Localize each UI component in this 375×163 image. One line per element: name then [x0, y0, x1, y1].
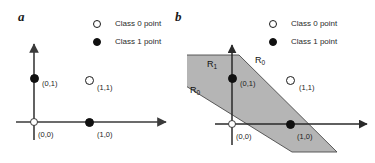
point-0-0 [228, 120, 236, 128]
label-1-1: (1,1) [299, 84, 314, 92]
panel-a-axes [0, 0, 187, 163]
point-1-0 [85, 118, 94, 127]
panel-b-plot [187, 0, 375, 163]
panel-b: b Class 0 point Class 1 point [187, 0, 375, 163]
label-0-0: (0,0) [38, 131, 53, 139]
panel-a: a Class 0 point Class 1 point [0, 0, 187, 163]
region-label-r1-text: R [207, 59, 214, 69]
point-1-0 [286, 120, 295, 129]
point-1-1 [286, 76, 295, 85]
label-1-0: (1,0) [297, 133, 312, 141]
label-1-1: (1,1) [97, 84, 112, 92]
region-label-r0-left-sub: 0 [197, 89, 201, 96]
point-0-1 [30, 74, 39, 83]
region-label-r0-left: R0 [190, 86, 200, 95]
point-0-1 [228, 74, 237, 83]
figure-container: a Class 0 point Class 1 point [0, 0, 375, 163]
label-0-1: (0,1) [240, 80, 255, 88]
panel-b-letter: b [175, 10, 182, 23]
region-label-r0-upper: R0 [255, 56, 265, 65]
decision-region-R1 [187, 55, 337, 152]
region-label-r0-upper-sub: 0 [262, 59, 266, 66]
label-0-1: (0,1) [42, 80, 57, 88]
label-1-0: (1,0) [97, 131, 112, 139]
point-0-0 [30, 118, 38, 126]
region-label-r0-upper-text: R [255, 55, 262, 65]
label-0-0: (0,0) [236, 133, 251, 141]
region-label-r0-left-text: R [190, 85, 197, 95]
region-label-r1-sub: 1 [214, 63, 218, 70]
point-1-1 [85, 76, 94, 85]
region-label-r1: R1 [207, 60, 217, 69]
